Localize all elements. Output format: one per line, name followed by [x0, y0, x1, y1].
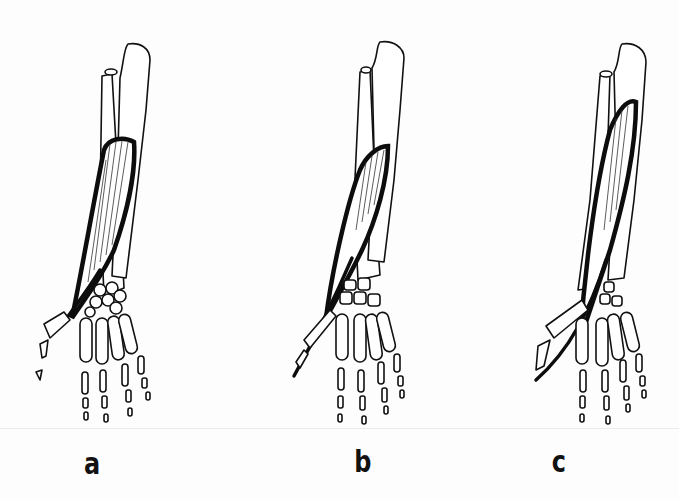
- forearm-drawing-b: [270, 0, 430, 500]
- forearm-drawing-a: [0, 0, 230, 500]
- panel-c: c: [510, 0, 679, 500]
- panel-label-c: c: [552, 444, 566, 479]
- panel-a: a: [0, 0, 230, 500]
- panel-b: b: [270, 0, 430, 500]
- forearm-drawing-c: [510, 0, 679, 500]
- panel-label-a: a: [84, 446, 100, 481]
- anatomy-figure: a: [0, 0, 679, 500]
- panel-label-b: b: [354, 444, 371, 479]
